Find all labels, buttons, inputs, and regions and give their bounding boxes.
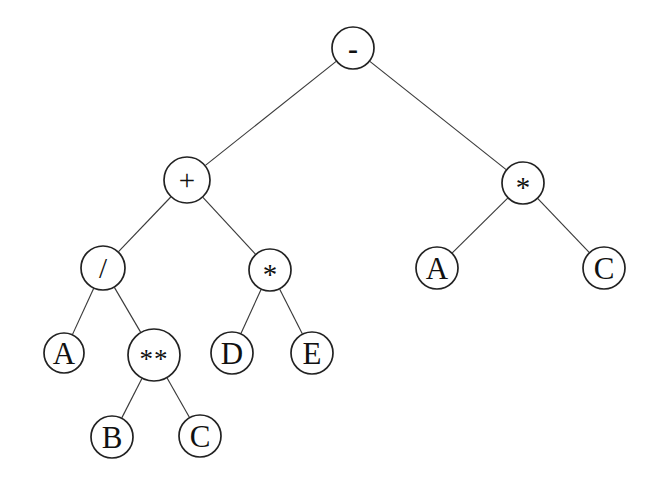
- tree-node[interactable]: B: [91, 416, 133, 458]
- tree-node[interactable]: +: [164, 157, 210, 203]
- node-label: +: [179, 164, 195, 196]
- tree-edge: [122, 379, 142, 418]
- tree-edge: [119, 197, 171, 252]
- tree-edge: [205, 61, 336, 165]
- tree-edge: [167, 378, 189, 417]
- tree-node[interactable]: A: [416, 247, 458, 289]
- tree-edge: [241, 290, 261, 334]
- expression-tree-figure: -+*/*ACA**DEBC: [0, 0, 662, 487]
- tree-node[interactable]: **: [128, 329, 180, 381]
- node-label: E: [303, 336, 322, 371]
- tree-edge: [114, 287, 140, 332]
- node-label: -: [348, 32, 358, 65]
- tree-edge: [203, 197, 255, 254]
- tree-node[interactable]: A: [44, 333, 84, 373]
- node-label: C: [594, 251, 615, 286]
- node-label: /: [99, 252, 108, 284]
- node-label: *: [516, 171, 531, 203]
- tree-node[interactable]: *: [502, 162, 544, 204]
- tree-node[interactable]: -: [332, 27, 374, 69]
- tree-node[interactable]: C: [583, 247, 625, 289]
- tree-node[interactable]: E: [291, 332, 333, 374]
- node-label: A: [53, 336, 76, 371]
- tree-edge: [280, 289, 303, 334]
- node-label: *: [263, 258, 278, 290]
- tree-edge: [73, 288, 94, 334]
- node-label: C: [190, 419, 211, 454]
- tree-edge: [538, 199, 589, 253]
- node-label: B: [102, 420, 123, 455]
- node-label: D: [221, 336, 243, 371]
- tree-canvas: -+*/*ACA**DEBC: [0, 0, 662, 487]
- tree-edge: [370, 61, 506, 169]
- node-label: A: [426, 251, 449, 286]
- tree-node[interactable]: *: [249, 249, 291, 291]
- tree-node[interactable]: D: [211, 332, 253, 374]
- tree-node[interactable]: /: [81, 246, 125, 290]
- nodes-layer: -+*/*ACA**DEBC: [44, 27, 625, 458]
- tree-node[interactable]: C: [179, 415, 221, 457]
- tree-edge: [452, 198, 507, 253]
- node-label: **: [140, 344, 169, 374]
